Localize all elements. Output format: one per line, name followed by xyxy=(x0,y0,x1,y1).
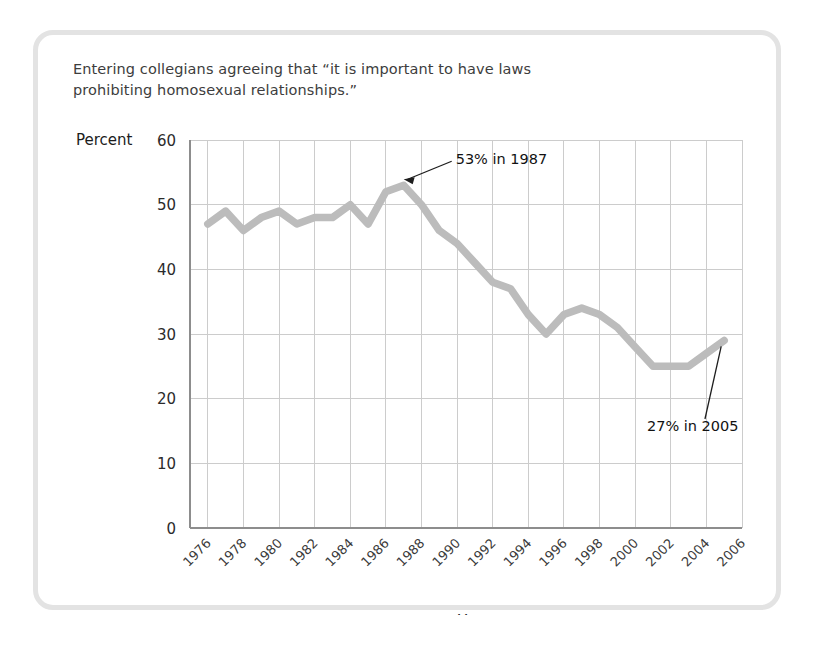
x-axis-tick-label: 1998 xyxy=(572,536,606,570)
x-axis-tick-label: 1984 xyxy=(322,536,356,570)
end-annotation-label: 27% in 2005 xyxy=(647,418,739,434)
x-axis-tick-label: 2004 xyxy=(679,536,713,570)
x-axis-tick-label: 2002 xyxy=(643,536,677,570)
y-axis-tick-label: 50 xyxy=(157,196,176,214)
x-axis-tick-label: 1990 xyxy=(429,536,463,570)
x-axis-tick-label: 1986 xyxy=(358,536,392,570)
x-axis-tick-label: 1980 xyxy=(251,536,285,570)
x-axis-tick-label: 2006 xyxy=(714,536,748,570)
x-axis-tick-label: 1996 xyxy=(536,536,570,570)
end-annotation-leader xyxy=(705,346,721,419)
x-axis-tick-label: 1982 xyxy=(287,536,321,570)
y-axis-tick-label: 10 xyxy=(157,455,176,473)
peak-annotation-leader xyxy=(408,161,452,179)
x-axis-tick-label: 2000 xyxy=(607,536,641,570)
data-series-line xyxy=(208,185,724,366)
line-chart: 0102030405060197619781980198219841986198… xyxy=(38,35,786,615)
y-axis-tick-label: 40 xyxy=(157,261,176,279)
y-axis-tick-label: 0 xyxy=(166,520,176,538)
y-axis-tick-label: 60 xyxy=(157,132,176,150)
x-axis-tick-label: 1994 xyxy=(500,536,534,570)
figure-card: Entering collegians agreeing that “it is… xyxy=(33,30,781,610)
y-axis-tick-label: 20 xyxy=(157,390,176,408)
y-axis-tick-label: 30 xyxy=(157,326,176,344)
x-axis-tick-label: 1992 xyxy=(465,536,499,570)
x-axis-tick-label: 1976 xyxy=(180,536,214,570)
chart-plot-area: 0102030405060197619781980198219841986198… xyxy=(38,35,786,615)
x-axis-tick-label: 1988 xyxy=(394,536,428,570)
peak-annotation-label: 53% in 1987 xyxy=(456,151,548,167)
x-axis-tick-label: 1978 xyxy=(216,536,250,570)
x-axis-title: Year xyxy=(457,612,491,615)
